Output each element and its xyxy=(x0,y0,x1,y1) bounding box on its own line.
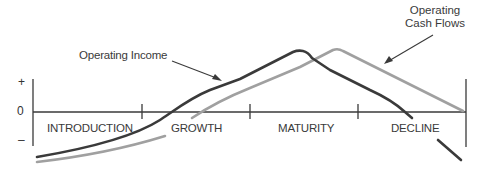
operating-cash-flows-label-line1: Operating xyxy=(400,4,470,17)
arrowhead-icon xyxy=(384,56,393,64)
operating-income-label: Operating Income xyxy=(79,49,167,61)
operating-cash-flows-line xyxy=(37,136,165,162)
y-tick-minus: – xyxy=(18,133,25,147)
stage-label-decline: DECLINE xyxy=(391,122,439,134)
operating-income-arrow xyxy=(172,61,219,79)
operating-cash-flows-arrow xyxy=(387,35,433,62)
operating-income-line-tail xyxy=(438,140,461,160)
operating-income-line xyxy=(37,51,412,157)
stage-label-introduction: INTRODUCTION xyxy=(47,122,133,134)
stage-label-maturity: MATURITY xyxy=(278,122,334,134)
arrowhead-icon xyxy=(212,74,222,81)
y-tick-zero: 0 xyxy=(17,104,24,118)
operating-cash-flows-line-tail xyxy=(192,49,463,118)
y-tick-plus: + xyxy=(18,75,25,89)
operating-cash-flows-label-line2: Cash Flows xyxy=(400,17,470,30)
operating-cash-flows-label: Operating Cash Flows xyxy=(400,4,470,30)
stage-label-growth: GROWTH xyxy=(171,122,222,134)
